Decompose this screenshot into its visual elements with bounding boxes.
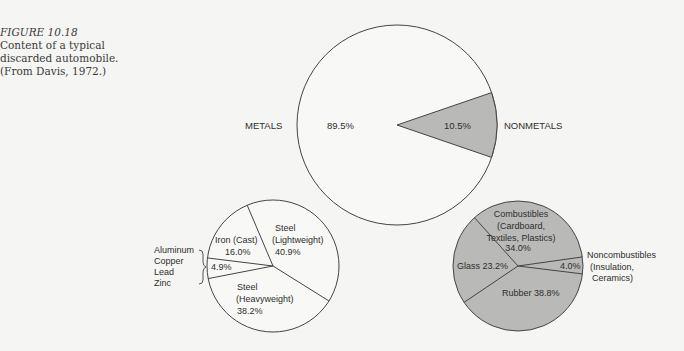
other-metals-value: 4.9% xyxy=(211,262,232,272)
nonmetals-value: 10.5% xyxy=(444,120,471,131)
nonmetals-label: NONMETALS xyxy=(504,120,562,131)
steel-heavy-label-1: Steel xyxy=(237,282,258,292)
steel-heavy-value: 38.2% xyxy=(237,306,263,316)
iron-value: 16.0% xyxy=(225,247,251,257)
combustibles-value: 34.0% xyxy=(505,243,531,253)
noncombustibles-label-1: Noncombustibles xyxy=(587,250,657,260)
noncombustibles-value: 4.0% xyxy=(560,261,581,271)
steel-light-label-1: Steel xyxy=(275,223,296,233)
nonmetals-pie: Combustibles (Cardboard, Textiles, Plast… xyxy=(453,201,657,331)
combustibles-label-3: Textiles, Plastics) xyxy=(486,233,555,243)
metals-pie: Steel (Lightweight) 40.9% Iron (Cast) 16… xyxy=(154,200,339,332)
steel-light-label-2: (Lightweight) xyxy=(272,235,324,245)
steel-heavy-label-2: (Heavyweight) xyxy=(236,294,294,304)
combustibles-label-1: Combustibles xyxy=(494,209,549,219)
pie-charts: METALS 89.5% 10.5% NONMETALS Steel (Ligh… xyxy=(0,0,684,351)
rubber-label: Rubber 38.8% xyxy=(502,288,560,298)
brace-icon xyxy=(199,250,206,284)
other-metal-copper: Copper xyxy=(154,256,184,266)
noncombustibles-label-3: Ceramics) xyxy=(592,273,633,283)
steel-light-value: 40.9% xyxy=(275,247,301,257)
other-metal-zinc: Zinc xyxy=(154,278,172,288)
noncombustibles-label-2: (Insulation, xyxy=(590,262,634,272)
other-metal-lead: Lead xyxy=(154,267,174,277)
glass-label: Glass 23.2% xyxy=(457,261,508,271)
combustibles-label-2: (Cardboard, xyxy=(497,221,545,231)
metals-value: 89.5% xyxy=(327,120,354,131)
other-metal-aluminum: Aluminum xyxy=(154,245,194,255)
iron-label: Iron (Cast) xyxy=(215,235,258,245)
main-pie: METALS 89.5% 10.5% NONMETALS xyxy=(245,25,562,225)
metals-label: METALS xyxy=(245,120,282,131)
